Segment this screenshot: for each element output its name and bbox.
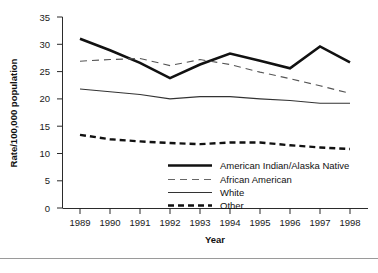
x-tick-label-1997: 1997 — [309, 217, 330, 228]
y-tick-label-0: 0 — [45, 203, 50, 214]
series-group — [80, 39, 350, 149]
series-line-american-indian-alaska-native — [80, 39, 350, 78]
series-line-african-american — [80, 58, 350, 93]
x-tick-label-1996: 1996 — [279, 217, 300, 228]
x-tick-label-1993: 1993 — [189, 217, 210, 228]
x-tick-label-1989: 1989 — [69, 217, 90, 228]
x-tick-label-1991: 1991 — [129, 217, 150, 228]
x-tick-label-1994: 1994 — [219, 217, 240, 228]
legend-label-white: White — [220, 187, 244, 198]
chart-legend: American Indian/Alaska Native African Am… — [168, 160, 349, 211]
y-tick-label-15: 15 — [39, 121, 50, 132]
legend-label-african-american: African American — [220, 174, 292, 185]
x-tick-marks — [80, 209, 350, 215]
y-tick-label-30: 30 — [39, 39, 50, 50]
y-tick-label-35: 35 — [39, 12, 50, 23]
series-line-other — [80, 135, 350, 149]
x-tick-label-1998: 1998 — [339, 217, 360, 228]
y-axis-title: Rate/100,000 population — [8, 58, 19, 167]
line-chart-figure: Rate/100,000 population 35 30 25 20 15 1… — [0, 0, 378, 273]
legend-label-other: Other — [220, 200, 244, 211]
y-tick-label-25: 25 — [39, 66, 50, 77]
legend-label-american-indian-alaska-native: American Indian/Alaska Native — [220, 160, 349, 171]
x-tick-label-1992: 1992 — [159, 217, 180, 228]
chart-svg: Rate/100,000 population 35 30 25 20 15 1… — [0, 0, 378, 273]
y-tick-marks — [57, 17, 63, 208]
y-tick-label-5: 5 — [45, 175, 50, 186]
x-tick-label-1990: 1990 — [99, 217, 120, 228]
y-tick-label-10: 10 — [39, 148, 50, 159]
x-tick-label-1995: 1995 — [249, 217, 270, 228]
series-line-white — [80, 89, 350, 103]
x-axis-title: Year — [205, 234, 225, 245]
y-tick-label-20: 20 — [39, 93, 50, 104]
